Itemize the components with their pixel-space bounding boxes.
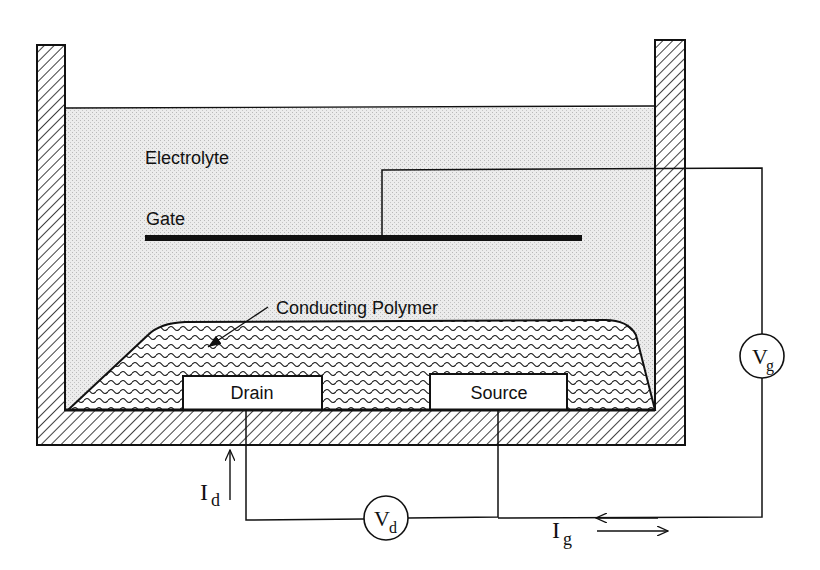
vg-sub: g bbox=[766, 357, 774, 375]
vd-sub: d bbox=[389, 519, 397, 536]
electrolyte-label: Electrolyte bbox=[145, 148, 229, 168]
vd-voltage-source: V d bbox=[364, 496, 408, 540]
gate-label: Gate bbox=[146, 209, 185, 229]
ig-sub: g bbox=[563, 529, 572, 549]
id-current-indicator: I d bbox=[200, 450, 230, 510]
ig-current-indicator: I g bbox=[552, 517, 668, 549]
drain-electrode: Drain bbox=[183, 376, 322, 410]
id-sub: d bbox=[211, 490, 220, 510]
transistor-diagram: Drain Source Electrolyte Gate Conducting… bbox=[0, 0, 820, 570]
source-electrode: Source bbox=[430, 374, 567, 410]
id-main: I bbox=[200, 479, 208, 505]
source-label: Source bbox=[470, 383, 527, 403]
vd-main: V bbox=[374, 506, 390, 531]
ig-main: I bbox=[552, 517, 560, 543]
vg-voltage-source: V g bbox=[740, 334, 784, 378]
gate-electrode bbox=[145, 235, 582, 241]
polymer-label: Conducting Polymer bbox=[276, 298, 438, 318]
drain-label: Drain bbox=[230, 383, 273, 403]
